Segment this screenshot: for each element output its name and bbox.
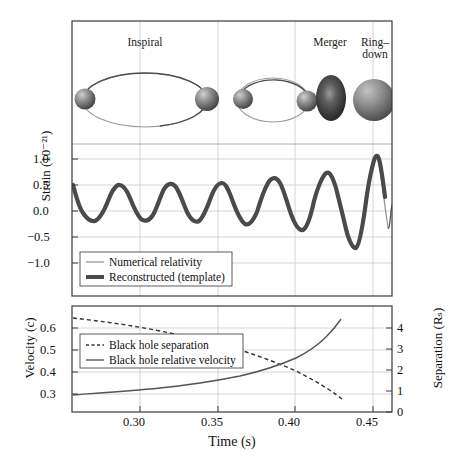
time-axis-title: Time (s): [72, 434, 392, 450]
velocity-ytick-marks: [72, 328, 78, 394]
x-tick-1: 0.30: [123, 415, 145, 430]
phase-label-merger: Merger: [303, 36, 357, 48]
reconstructed-template-curve: [73, 156, 385, 248]
inspiral-illustration-left: [75, 73, 220, 127]
velocity-ytick-1: 0.6: [40, 321, 56, 336]
figure-canvas: Numerical relativity Reconstructed (temp…: [0, 0, 455, 467]
separation-ytick-marks: [386, 328, 392, 412]
gravitational-wave-figure: Numerical relativity Reconstructed (temp…: [0, 0, 455, 467]
legend-label-black-hole-separation: Black hole separation: [109, 339, 209, 352]
strain-legend: Numerical relativity Reconstructed (temp…: [80, 252, 232, 286]
x-tick-2: 0.35: [201, 415, 223, 430]
strain-ytick-5: −1.0: [27, 256, 50, 271]
strain-ytick-marks: [72, 159, 78, 263]
separation-axis-title: Separation (Rₛ): [430, 301, 446, 396]
legend-label-numerical-relativity: Numerical relativity: [109, 256, 202, 269]
x-tick-3: 0.40: [278, 415, 300, 430]
velocity-ytick-3: 0.4: [40, 365, 56, 380]
legend-label-reconstructed-template: Reconstructed (template): [109, 271, 225, 284]
separation-ytick-1: 4: [397, 321, 403, 336]
merged-black-hole: [316, 75, 346, 121]
bottom-legend: Black hole separation Black hole relativ…: [80, 334, 243, 368]
legend-label-black-hole-relative-velocity: Black hole relative velocity: [109, 354, 236, 367]
x-tick-marks: [140, 406, 373, 412]
inspiral-illustration-right: [233, 78, 318, 122]
ringdown-illustration: [353, 79, 395, 121]
phase-label-inspiral: Inspiral: [115, 36, 175, 48]
separation-ytick-5: 0: [397, 405, 403, 420]
final-black-hole: [353, 79, 395, 121]
black-hole-sphere: [195, 87, 219, 111]
strain-axis-title: Strain (10⁻²¹): [38, 86, 54, 246]
phase-label-ringdown: Ring– down: [352, 36, 398, 60]
x-tick-4: 0.45: [356, 415, 378, 430]
phase-label-ringdown-line2: down: [362, 48, 388, 60]
separation-ytick-4: 1: [397, 384, 403, 399]
strain-waveform-group: [73, 156, 450, 248]
ringdown-tail-curve: [388, 202, 450, 228]
merger-illustration: [316, 75, 346, 121]
velocity-ytick-2: 0.5: [40, 343, 56, 358]
black-hole-sphere: [75, 89, 96, 110]
separation-ytick-2: 3: [397, 342, 403, 357]
black-hole-sphere: [297, 91, 318, 112]
phase-label-ringdown-line1: Ring–: [361, 36, 389, 48]
separation-ytick-3: 2: [397, 363, 403, 378]
black-hole-sphere: [233, 89, 253, 109]
velocity-ytick-4: 0.3: [40, 387, 56, 402]
velocity-axis-title: Velocity (c): [22, 301, 38, 396]
